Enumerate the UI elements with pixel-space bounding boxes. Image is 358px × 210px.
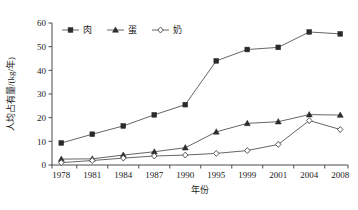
data-point bbox=[214, 58, 219, 63]
data-point bbox=[152, 112, 157, 117]
x-tick-label: 2001 bbox=[269, 170, 287, 180]
x-tick-label: 1999 bbox=[238, 170, 257, 180]
data-point bbox=[307, 30, 312, 35]
y-tick-label: 40 bbox=[37, 66, 47, 76]
y-tick-label: 10 bbox=[37, 137, 47, 147]
data-point bbox=[90, 132, 95, 137]
data-point bbox=[183, 102, 188, 107]
y-axis-title: 人均占有量/(kg/年) bbox=[5, 57, 16, 131]
y-tick-label: 0 bbox=[42, 160, 47, 170]
y-tick-label: 30 bbox=[37, 89, 47, 99]
legend-label: 蛋 bbox=[128, 25, 137, 35]
y-tick-label: 20 bbox=[37, 113, 47, 123]
data-point bbox=[245, 47, 250, 52]
x-tick-label: 1978 bbox=[52, 170, 71, 180]
x-tick-label: 2008 bbox=[331, 170, 350, 180]
data-point bbox=[121, 124, 126, 129]
y-tick-label: 60 bbox=[37, 18, 47, 28]
data-point bbox=[59, 141, 64, 146]
legend-label: 肉 bbox=[83, 24, 92, 35]
x-tick-label: 1981 bbox=[83, 170, 101, 180]
x-tick-label: 1990 bbox=[176, 170, 195, 180]
chart-figure: 0102030405060 19781981198419871990199519… bbox=[0, 0, 358, 210]
x-axis-title: 年份 bbox=[191, 184, 209, 195]
y-tick-label: 50 bbox=[37, 42, 47, 52]
data-point bbox=[338, 31, 343, 36]
x-tick-label: 2004 bbox=[300, 170, 319, 180]
x-tick-label: 1995 bbox=[207, 170, 226, 180]
data-point bbox=[276, 45, 281, 50]
x-tick-label: 1987 bbox=[145, 170, 164, 180]
line-chart: 0102030405060 19781981198419871990199519… bbox=[0, 0, 358, 210]
legend-marker bbox=[68, 28, 73, 33]
legend-label: 奶 bbox=[173, 24, 182, 35]
x-tick-label: 1984 bbox=[114, 170, 133, 180]
